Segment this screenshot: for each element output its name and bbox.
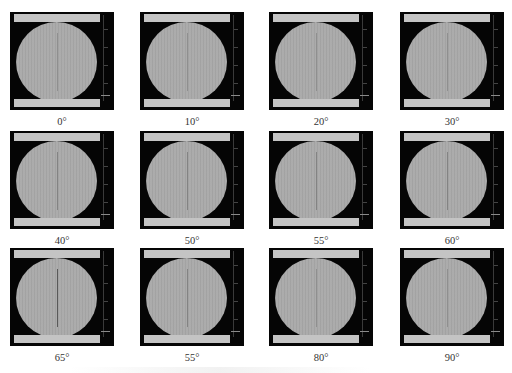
panel-cell: 90°: [400, 248, 506, 366]
panel-cell: 60°: [400, 131, 506, 249]
angle-label: 10°: [140, 116, 244, 127]
colorbar-tick: [363, 83, 367, 84]
colorbar-tick: [363, 265, 367, 266]
colorbar-tick: [494, 319, 498, 320]
angle-label: 60°: [400, 235, 504, 246]
figure-caption: [70, 367, 370, 373]
panel-cell: 20°: [269, 12, 375, 130]
colorbar-marker: [491, 214, 500, 215]
top-platen: [404, 133, 490, 141]
colorbar-marker: [101, 331, 110, 332]
panel-cell: 50°: [140, 131, 246, 249]
panel-cell: 80°: [269, 248, 375, 366]
colorbar-tick: [494, 148, 498, 149]
specimen-disc: [16, 22, 97, 102]
colorbar-tick: [494, 301, 498, 302]
colorbar-marker: [491, 331, 500, 332]
crack-line: [447, 152, 448, 210]
colorbar-marker: [231, 214, 240, 215]
ct-slice-image: [269, 131, 373, 229]
colorbar: [103, 134, 110, 220]
bottom-platen: [273, 99, 359, 107]
specimen-disc: [275, 22, 356, 102]
top-platen: [14, 14, 100, 22]
specimen-disc: [16, 141, 97, 221]
ct-slice-image: [269, 248, 373, 346]
colorbar-marker: [231, 331, 240, 332]
top-platen: [273, 133, 359, 141]
crack-line: [57, 152, 58, 210]
angle-label: 65°: [10, 352, 114, 363]
specimen-disc: [406, 141, 487, 221]
top-platen: [14, 133, 100, 141]
colorbar-tick: [494, 166, 498, 167]
colorbar: [233, 134, 240, 220]
colorbar: [493, 134, 500, 220]
top-platen: [144, 14, 230, 22]
angle-label: 20°: [269, 116, 373, 127]
colorbar-tick: [363, 319, 367, 320]
crack-line: [187, 269, 188, 327]
crack-line: [57, 269, 58, 327]
colorbar-tick: [234, 184, 238, 185]
colorbar-tick: [363, 47, 367, 48]
colorbar-tick: [363, 202, 367, 203]
bottom-platen: [404, 99, 490, 107]
colorbar: [362, 15, 369, 101]
angle-label: 80°: [269, 352, 373, 363]
angle-label: 90°: [400, 352, 504, 363]
bottom-platen: [404, 218, 490, 226]
ct-slice-image: [400, 248, 504, 346]
colorbar-tick: [494, 47, 498, 48]
colorbar-tick: [363, 283, 367, 284]
ct-slice-image: [10, 12, 114, 110]
colorbar-tick: [234, 65, 238, 66]
bottom-platen: [14, 335, 100, 343]
colorbar-tick: [234, 29, 238, 30]
colorbar-tick: [234, 301, 238, 302]
ct-slice-image: [10, 131, 114, 229]
specimen-disc: [275, 258, 356, 338]
colorbar-tick: [494, 83, 498, 84]
ct-slice-image: [400, 131, 504, 229]
colorbar-tick: [104, 301, 108, 302]
ct-slice-image: [10, 248, 114, 346]
colorbar-tick: [494, 265, 498, 266]
colorbar-tick: [363, 65, 367, 66]
colorbar-tick: [363, 29, 367, 30]
colorbar-tick: [234, 202, 238, 203]
ct-slice-image: [269, 12, 373, 110]
top-platen: [144, 133, 230, 141]
colorbar-tick: [494, 184, 498, 185]
panel-cell: 0°: [10, 12, 116, 130]
colorbar-tick: [104, 83, 108, 84]
angle-label: 40°: [10, 235, 114, 246]
colorbar-tick: [363, 301, 367, 302]
colorbar-tick: [363, 184, 367, 185]
crack-line: [316, 33, 317, 91]
crack-line: [187, 152, 188, 210]
angle-label: 50°: [140, 235, 244, 246]
colorbar-marker: [101, 95, 110, 96]
colorbar-tick: [234, 166, 238, 167]
colorbar-marker: [101, 214, 110, 215]
ct-slice-image: [140, 248, 244, 346]
colorbar-tick: [363, 166, 367, 167]
top-platen: [273, 14, 359, 22]
ct-slice-image: [400, 12, 504, 110]
colorbar-tick: [234, 47, 238, 48]
specimen-disc: [146, 141, 227, 221]
specimen-disc: [406, 22, 487, 102]
colorbar-tick: [104, 319, 108, 320]
colorbar: [362, 134, 369, 220]
top-platen: [14, 250, 100, 258]
crack-line: [57, 33, 58, 91]
colorbar-tick: [494, 283, 498, 284]
colorbar-marker: [360, 95, 369, 96]
colorbar-tick: [494, 65, 498, 66]
bottom-platen: [14, 218, 100, 226]
specimen-disc: [275, 141, 356, 221]
colorbar-tick: [363, 148, 367, 149]
angle-label: 0°: [10, 116, 114, 127]
ct-slice-image: [140, 131, 244, 229]
